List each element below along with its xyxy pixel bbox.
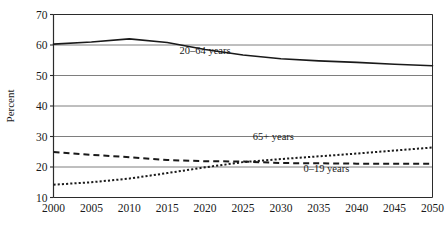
x-tick-label-2005: 2005 — [80, 202, 103, 214]
y-tick-label-70: 70 — [36, 9, 48, 21]
x-tick-label-2045: 2045 — [383, 202, 406, 214]
chart-container: 10203040506070 2000200520102015202020252… — [0, 0, 445, 227]
x-tick-label-2035: 2035 — [307, 202, 330, 214]
series-label-0: 20–64 years — [180, 45, 231, 56]
y-tick-label-30: 30 — [36, 131, 48, 143]
chart-background — [0, 0, 445, 227]
x-tick-label-2010: 2010 — [118, 202, 141, 214]
x-tick-label-2040: 2040 — [345, 202, 368, 214]
y-tick-label-60: 60 — [36, 39, 48, 51]
x-tick-label-2000: 2000 — [42, 202, 65, 214]
series-label-2: 0–19 years — [303, 163, 349, 174]
series-label-1: 65+ years — [253, 131, 294, 142]
y-axis-title: Percent — [4, 90, 16, 123]
x-tick-label-2050: 2050 — [421, 202, 444, 214]
population-share-line-chart: 10203040506070 2000200520102015202020252… — [0, 0, 445, 227]
x-tick-label-2020: 2020 — [194, 202, 217, 214]
x-tick-label-2015: 2015 — [156, 202, 179, 214]
y-tick-label-50: 50 — [36, 70, 48, 82]
y-tick-label-40: 40 — [36, 100, 48, 112]
x-tick-label-2025: 2025 — [232, 202, 255, 214]
x-tick-labels-group: 2000200520102015202020252030203520402045… — [42, 202, 444, 214]
x-tick-label-2030: 2030 — [269, 202, 292, 214]
y-tick-label-20: 20 — [36, 161, 48, 173]
